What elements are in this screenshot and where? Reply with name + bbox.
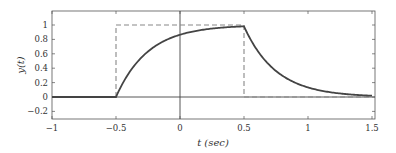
y-tick-label: 1 — [43, 20, 48, 30]
data-series — [52, 25, 372, 97]
x-tick-label: 1 — [305, 123, 310, 133]
y-tick-label: 0 — [43, 92, 48, 102]
input-pulse-line — [52, 25, 372, 97]
x-tick-label: 1.5 — [365, 123, 379, 133]
x-tick-label: 0.5 — [237, 123, 251, 133]
y-tick-label: −0.2 — [27, 106, 48, 116]
response-curve — [52, 26, 372, 97]
x-axis-label: t (sec) — [197, 137, 229, 148]
y-tick-label: 0.6 — [34, 49, 48, 59]
y-tick-label: 0.8 — [34, 34, 48, 44]
response-chart: −1−0.500.511.5−0.200.20.40.60.81 t (sec)… — [0, 0, 396, 153]
y-tick-label: 0.2 — [34, 78, 48, 88]
plot-frame — [52, 11, 375, 119]
y-tick-label: 0.4 — [34, 63, 48, 73]
x-tick-label: 0 — [177, 123, 182, 133]
zero-axes — [52, 11, 375, 119]
x-tick-label: −1 — [46, 123, 59, 133]
x-tick-label: −0.5 — [106, 123, 127, 133]
y-axis-label: y(t) — [15, 56, 26, 75]
